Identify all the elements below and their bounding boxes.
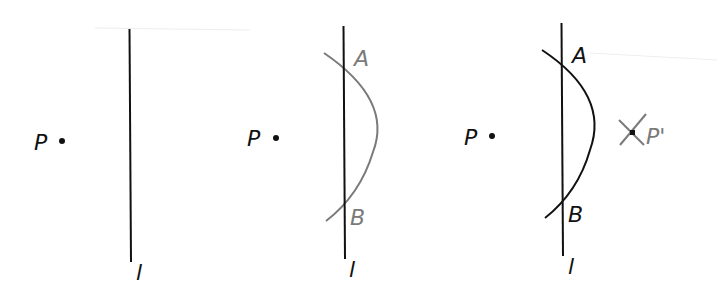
point-p-prime-dot (630, 130, 635, 135)
line-l-label: l (349, 257, 355, 282)
arc-mark-cross (620, 114, 646, 145)
panel-step-1: P l (34, 29, 142, 285)
compass-arc (324, 53, 377, 221)
compass-arc (542, 50, 595, 218)
panel-step-2: P A B l (247, 26, 377, 282)
point-b-label: B (568, 202, 583, 227)
scan-artifact (95, 28, 250, 30)
point-p-dot (489, 133, 495, 139)
line-l-label: l (136, 260, 142, 285)
point-p-label: P (247, 126, 261, 151)
point-p-label: P (464, 125, 478, 150)
point-b-label: B (350, 205, 365, 230)
point-p-label: P (34, 130, 48, 155)
line-l (344, 26, 346, 259)
point-p-dot (59, 138, 65, 144)
reflection-construction-diagram: P l P A B l P A B l P' (0, 0, 717, 289)
line-l (130, 29, 132, 262)
point-p-dot (273, 135, 279, 141)
point-a-label: A (352, 46, 369, 71)
scan-artifact (590, 53, 717, 60)
line-l-label: l (568, 254, 574, 279)
point-a-label: A (570, 43, 587, 68)
panel-step-3: P A B l P' (464, 23, 665, 279)
line-l (562, 23, 564, 256)
point-p-prime-label: P' (646, 124, 665, 149)
